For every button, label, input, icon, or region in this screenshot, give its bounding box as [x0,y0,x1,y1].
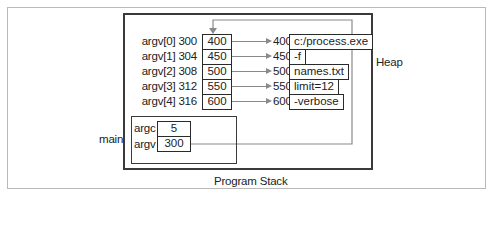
heap-string-4: -verbose [289,94,344,110]
argc-label: argc [134,121,156,136]
arrow-right-icon [266,68,272,74]
argv-4-label: argv[4] 316 [142,94,197,109]
argv-2-label: argv[2] 308 [142,64,197,79]
argv-0-label: argv[0] 300 [142,34,197,49]
argc-cell: 5 [157,121,191,137]
argv-1-label: argv[1] 304 [142,49,197,64]
argv-4-cell: 600 [202,94,232,110]
arrow-3-line [232,86,268,87]
argv-3-cell: 550 [202,79,232,95]
arrow-2-line [232,71,268,72]
arrow-1-line [232,56,268,57]
arrow-right-icon [266,53,272,59]
program-stack-label: Program Stack [214,174,287,189]
argv-1-cell: 450 [202,49,232,65]
heap-string-2: names.txt [289,64,349,80]
argv-0-cell: 400 [202,34,232,50]
arrow-right-icon [266,83,272,89]
heap-string-1: -f [289,49,306,65]
arrow-right-icon [266,38,272,44]
heap-label: Heap [376,55,403,70]
argv-2-cell: 500 [202,64,232,80]
heap-string-3: limit=12 [289,79,339,95]
argv-cell: 300 [157,136,191,152]
arrow-4-line [232,101,268,102]
argv-3-label: argv[3] 312 [142,79,197,94]
argv-label: argv [134,137,156,152]
arrow-right-icon [266,98,272,104]
arrow-0-line [232,41,268,42]
main-label: main [99,132,123,147]
heap-string-0: c:/process.exe [289,34,373,50]
